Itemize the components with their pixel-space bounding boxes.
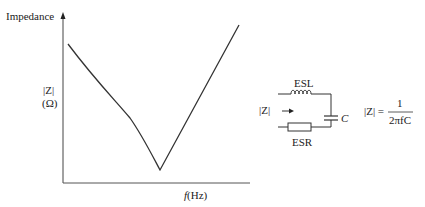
formula-lhs: |Z| = — [364, 106, 384, 117]
resistor-icon — [288, 123, 311, 131]
formula-numerator: 1 — [397, 98, 403, 109]
impedance-curve — [68, 25, 239, 170]
impedance-graph — [0, 0, 425, 207]
capacitor-equivalent-circuit — [278, 90, 338, 131]
y-axis-title: Impedance — [6, 11, 54, 22]
x-axis-unit: (Hz) — [187, 189, 207, 201]
formula-denominator: 2πfC — [389, 115, 411, 126]
y-axis-symbol: |Z| — [43, 85, 54, 96]
input-impedance-label: |Z| — [259, 105, 270, 116]
esr-label: ESR — [292, 137, 312, 148]
inductor-icon — [291, 90, 311, 94]
x-axis-label: f(Hz) — [184, 190, 207, 201]
input-arrow-icon — [289, 109, 294, 114]
y-axis-arrow-icon — [61, 12, 66, 19]
y-axis-unit: (Ω) — [42, 98, 58, 109]
capacitor-label: C — [341, 113, 348, 124]
esl-label: ESL — [294, 78, 314, 89]
